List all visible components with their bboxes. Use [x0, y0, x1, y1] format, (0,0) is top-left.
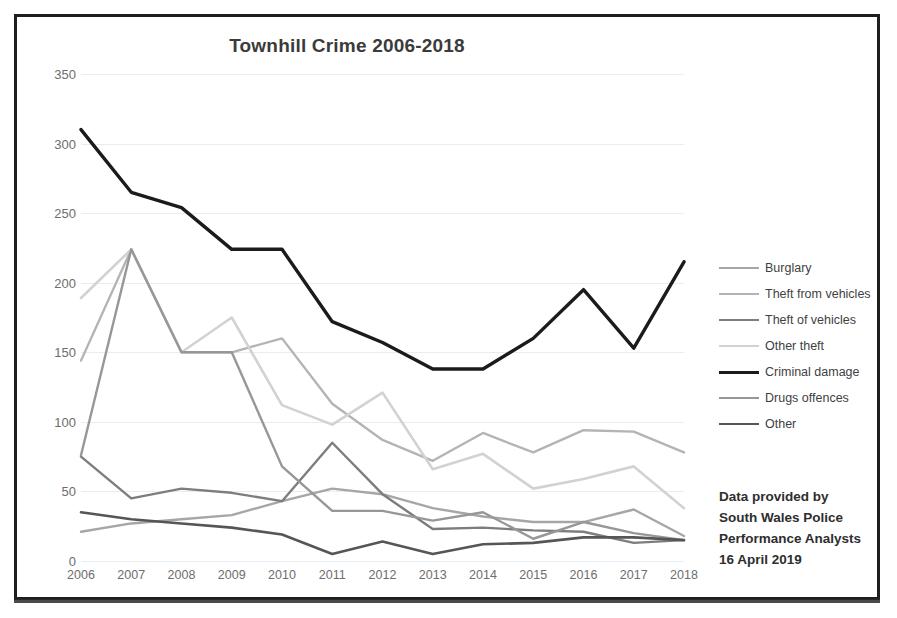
legend-item[interactable]: Drugs offences	[719, 385, 891, 411]
legend-item[interactable]: Other	[719, 411, 891, 437]
y-axis-tick-label: 50	[16, 484, 76, 499]
x-axis-tick-label: 2010	[268, 568, 296, 582]
y-axis-tick-label: 100	[16, 414, 76, 429]
legend-swatch	[719, 397, 759, 399]
legend-label: Drugs offences	[765, 391, 849, 405]
chart-frame: Townhill Crime 2006-2018 050100150200250…	[14, 14, 880, 600]
series-line	[81, 249, 684, 461]
legend-label: Criminal damage	[765, 365, 859, 379]
x-axis-tick-label: 2014	[469, 568, 497, 582]
legend-item[interactable]: Burglary	[719, 255, 891, 281]
x-axis-tick-label: 2007	[117, 568, 145, 582]
x-axis-tick-label: 2012	[369, 568, 397, 582]
x-axis-tick-label: 2013	[419, 568, 447, 582]
attribution-line-3: Performance Analysts	[719, 529, 897, 550]
attribution-line-2: South Wales Police	[719, 508, 897, 529]
attribution-line-1: Data provided by	[719, 487, 897, 508]
y-axis-tick-label: 200	[16, 275, 76, 290]
x-axis-tick-label: 2011	[319, 568, 346, 582]
y-axis-tick-label: 350	[16, 67, 76, 82]
attribution-line-4: 16 April 2019	[719, 550, 897, 571]
legend-label: Theft of vehicles	[765, 313, 856, 327]
legend-swatch	[719, 345, 759, 347]
plot-area: 050100150200250300350 200620072008200920…	[81, 74, 684, 561]
legend-label: Other	[765, 417, 796, 431]
legend-swatch	[719, 319, 759, 321]
y-axis-tick-label: 150	[16, 345, 76, 360]
x-axis-tick-label: 2009	[218, 568, 246, 582]
legend-swatch	[719, 293, 759, 295]
series-line	[81, 249, 684, 508]
legend-label: Theft from vehicles	[765, 287, 871, 301]
chart-title: Townhill Crime 2006-2018	[17, 35, 677, 57]
legend-item[interactable]: Theft from vehicles	[719, 281, 891, 307]
chart-legend: BurglaryTheft from vehiclesTheft of vehi…	[719, 255, 891, 437]
legend-swatch	[719, 371, 759, 374]
legend-item[interactable]: Criminal damage	[719, 359, 891, 385]
legend-item[interactable]: Other theft	[719, 333, 891, 359]
gridline	[81, 561, 684, 562]
x-axis-tick-label: 2017	[620, 568, 648, 582]
x-axis-tick-label: 2018	[670, 568, 698, 582]
y-axis-tick-label: 0	[16, 554, 76, 569]
x-axis-tick-label: 2015	[519, 568, 547, 582]
legend-swatch	[719, 267, 759, 269]
legend-label: Other theft	[765, 339, 824, 353]
y-axis-tick-label: 300	[16, 136, 76, 151]
legend-label: Burglary	[765, 261, 812, 275]
legend-item[interactable]: Theft of vehicles	[719, 307, 891, 333]
x-axis-tick-label: 2006	[67, 568, 95, 582]
y-axis-tick-label: 250	[16, 206, 76, 221]
series-line	[81, 489, 684, 536]
series-lines	[81, 74, 684, 561]
x-axis-tick-label: 2008	[168, 568, 196, 582]
legend-swatch	[719, 423, 759, 425]
series-line	[81, 443, 684, 543]
attribution-note: Data provided by South Wales Police Perf…	[719, 487, 897, 571]
x-axis-tick-label: 2016	[570, 568, 598, 582]
